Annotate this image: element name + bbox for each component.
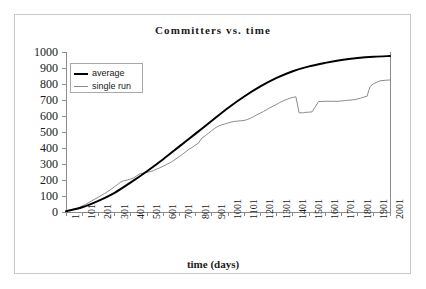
- x-axis-title: time (days): [0, 258, 426, 270]
- x-tick-label: 2001: [394, 199, 405, 219]
- y-tick-label: 200: [20, 174, 58, 186]
- y-tick-label: 600: [20, 110, 58, 122]
- y-tick-label: 400: [20, 142, 58, 154]
- x-tick-label: 101: [86, 204, 97, 219]
- x-tick-label: 1001: [232, 199, 243, 219]
- x-tick-label: 601: [167, 204, 178, 219]
- x-tick-label: 401: [135, 204, 146, 219]
- x-tick-label: 901: [216, 204, 227, 219]
- x-tick-label: 1201: [264, 199, 275, 219]
- legend-line-icon-single-run: [74, 82, 88, 90]
- x-tick-label: 1501: [313, 199, 324, 219]
- x-tick-label: 801: [200, 204, 211, 219]
- y-tick-label: 100: [20, 190, 58, 202]
- x-tick-label: 1701: [345, 199, 356, 219]
- x-tick-label: 1401: [297, 199, 308, 219]
- x-tick-label: 301: [119, 204, 130, 219]
- y-tick-label: 900: [20, 62, 58, 74]
- x-tick-label: 501: [151, 204, 162, 219]
- x-tick-label: 701: [183, 204, 194, 219]
- x-tick-label: 1601: [329, 199, 340, 219]
- y-tick-label: 300: [20, 158, 58, 170]
- legend-label-average: average: [92, 68, 125, 78]
- y-tick-label: 800: [20, 78, 58, 90]
- legend-line-icon-average: [74, 69, 88, 77]
- x-tick-label: 1101: [248, 199, 259, 219]
- chart-screenshot: Committers vs. time 01002003004005006007…: [0, 0, 426, 289]
- y-tick-label: 700: [20, 94, 58, 106]
- x-tick-label: 201: [102, 204, 113, 219]
- y-tick-label: 500: [20, 126, 58, 138]
- chart-legend: average single run: [70, 63, 143, 93]
- legend-label-single-run: single run: [92, 81, 131, 91]
- x-tick-label: 1301: [281, 199, 292, 219]
- legend-item-single-run: single run: [74, 79, 139, 92]
- x-tick-label: 1901: [378, 199, 389, 219]
- x-tick-label: 1801: [362, 199, 373, 219]
- x-tick-label: 1: [70, 214, 81, 219]
- y-tick-label: 1000: [20, 46, 58, 58]
- y-tick-label: 0: [20, 206, 58, 218]
- plot-canvas: [0, 0, 426, 289]
- legend-item-average: average: [74, 66, 139, 79]
